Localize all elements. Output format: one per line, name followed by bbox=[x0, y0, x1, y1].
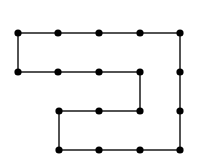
graph-node-n3 bbox=[95, 29, 102, 36]
graph-node-n12 bbox=[95, 107, 102, 114]
graph-node-n1 bbox=[14, 29, 21, 36]
path-graph bbox=[0, 0, 199, 160]
graph-node-n4 bbox=[136, 29, 143, 36]
graph-node-n6 bbox=[14, 68, 21, 75]
path-edges bbox=[18, 33, 180, 150]
graph-node-n9 bbox=[136, 68, 143, 75]
graph-node-n17 bbox=[136, 146, 143, 153]
graph-node-n10 bbox=[176, 68, 183, 75]
graph-node-n5 bbox=[176, 29, 183, 36]
graph-node-n7 bbox=[54, 68, 61, 75]
graph-node-n14 bbox=[176, 107, 183, 114]
graph-node-n18 bbox=[176, 146, 183, 153]
graph-node-n15 bbox=[55, 146, 62, 153]
graph-node-n8 bbox=[95, 68, 102, 75]
graph-node-n13 bbox=[136, 107, 143, 114]
graph-node-n16 bbox=[95, 146, 102, 153]
diagram-canvas bbox=[0, 0, 199, 160]
graph-node-n2 bbox=[54, 29, 61, 36]
node-group bbox=[14, 29, 183, 153]
graph-node-n11 bbox=[55, 107, 62, 114]
